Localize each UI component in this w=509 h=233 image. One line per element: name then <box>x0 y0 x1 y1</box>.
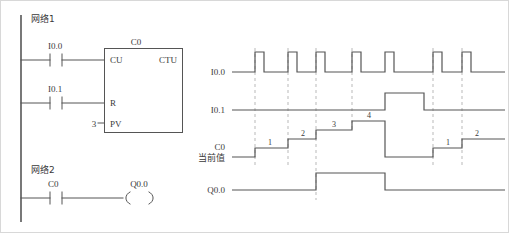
rung-q00: C0 Q0.0 <box>21 179 153 204</box>
timing-label-c0-current: 当前值 <box>198 152 225 163</box>
timing-guides <box>255 48 462 200</box>
ctu-input-r-label: R <box>110 98 116 108</box>
step-value-label: 3 <box>332 120 336 129</box>
ctu-counter-block: C0 CU CTU R PV 3 <box>92 37 183 133</box>
coil-right-arc <box>149 192 153 204</box>
waveform-i00 <box>232 52 505 72</box>
ctu-input-pv-label: PV <box>110 119 122 129</box>
waveform-i01 <box>232 93 505 110</box>
contact-label-i01: I0.1 <box>48 84 62 94</box>
rung-i00: I0.0 <box>21 41 104 66</box>
ctu-input-cu-label: CU <box>110 55 123 65</box>
timing-label-i01: I0.1 <box>211 105 225 115</box>
timing-label-i00: I0.0 <box>211 67 226 77</box>
ladder-diagram: 网络1 I0.0 I0.1 C0 CU <box>21 13 183 222</box>
ctu-name-label: C0 <box>131 37 142 47</box>
step-value-label: 4 <box>367 111 371 120</box>
network2-label: 网络2 <box>31 164 55 175</box>
rung-i01: I0.1 <box>21 84 104 109</box>
step-value-label: 2 <box>475 129 479 138</box>
plc-ctu-figure: 网络1 I0.0 I0.1 C0 CU <box>0 0 509 233</box>
waveform-c0-current-value <box>232 121 505 157</box>
contact-label-c0: C0 <box>48 179 59 189</box>
step-value-label: 1 <box>268 138 272 147</box>
step-value-label: 2 <box>301 129 305 138</box>
ctu-type-label: CTU <box>159 55 178 65</box>
coil-label-q00: Q0.0 <box>130 179 148 189</box>
coil-left-arc <box>126 192 130 204</box>
contact-label-i00: I0.0 <box>48 41 63 51</box>
ctu-preset-value: 3 <box>92 119 97 129</box>
step-value-label: 1 <box>446 138 450 147</box>
timing-label-q00: Q0.0 <box>207 185 225 195</box>
network1-label: 网络1 <box>31 13 55 24</box>
timing-label-c0: C0 <box>214 142 225 152</box>
waveform-q00 <box>232 173 505 190</box>
timing-diagram: I0.0 I0.1 C0 当前值 1 2 3 4 1 2 Q0.0 <box>198 48 505 200</box>
